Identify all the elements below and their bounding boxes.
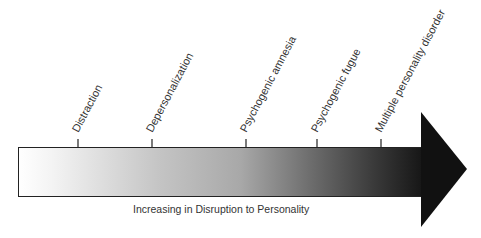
tick-marks (78, 139, 381, 147)
axis-caption: Increasing in Disruption to Personality (133, 203, 309, 215)
gradient-bar (19, 148, 423, 197)
arrowhead (421, 112, 467, 227)
